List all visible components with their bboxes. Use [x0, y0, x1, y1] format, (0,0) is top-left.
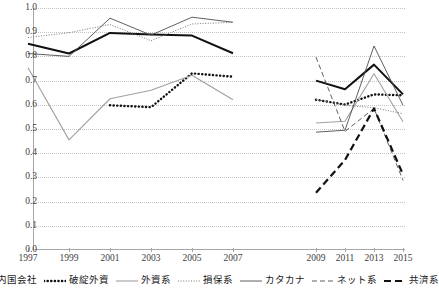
y-axis-tick-label: 1.0 — [7, 3, 37, 13]
legend-item[interactable]: 共済系 — [384, 276, 439, 286]
series-line — [28, 33, 233, 54]
legend-item[interactable]: カタカナ — [240, 276, 305, 286]
legend-item[interactable]: 破綻外資 — [44, 276, 109, 286]
x-axis-tick-mark — [69, 248, 70, 252]
legend-swatch-icon — [312, 277, 334, 285]
legend-item[interactable]: 損保系 — [178, 276, 233, 286]
x-axis-tick-mark — [403, 248, 404, 252]
legend-item[interactable]: ネット系 — [312, 276, 377, 286]
series-line — [28, 68, 233, 140]
y-axis-tick-label: 0.9 — [7, 27, 37, 37]
y-axis-tick-label: 0.0 — [7, 245, 37, 255]
x-axis-tick-mark — [233, 248, 234, 252]
legend-item[interactable]: 内国会社 — [0, 276, 37, 286]
x-axis-tick-mark — [151, 248, 152, 252]
chart-legend: 内国会社破綻外資外資系損保系カタカナネット系共済系 — [0, 270, 411, 291]
x-axis-tick-mark — [316, 248, 317, 252]
y-axis-tick-label: 0.7 — [7, 76, 37, 86]
legend-swatch-icon — [384, 277, 406, 285]
y-axis-tick-label: 0.2 — [7, 197, 37, 207]
legend-item-label: 外資系 — [141, 276, 171, 286]
series-line — [316, 108, 403, 192]
legend-swatch-icon — [240, 277, 262, 285]
legend-item[interactable]: 外資系 — [116, 276, 171, 286]
series-line — [316, 99, 403, 113]
x-axis-tick-mark — [110, 248, 111, 252]
y-axis-tick-label: 0.5 — [7, 124, 37, 134]
y-axis-tick-label: 0.3 — [7, 172, 37, 182]
legend-swatch-icon — [116, 277, 138, 285]
x-axis-tick-mark — [192, 248, 193, 252]
x-axis-tick-label: 2001 — [90, 254, 130, 264]
legend-item-label: 内国会社 — [0, 276, 37, 286]
x-axis-tick-label: 2015 — [383, 254, 423, 264]
y-axis-tick-label: 0.6 — [7, 100, 37, 110]
series-line — [316, 57, 403, 180]
x-axis-tick-mark — [374, 248, 375, 252]
legend-item-label: 損保系 — [203, 276, 233, 286]
x-axis: 1997199920012003200520072009201120132015 — [33, 252, 405, 268]
legend-item-label: 破綻外資 — [69, 276, 109, 286]
legend-swatch-icon — [44, 277, 66, 285]
x-axis-tick-label: 2007 — [213, 254, 253, 264]
series-line — [110, 73, 233, 107]
x-axis-tick-label: 1999 — [49, 254, 89, 264]
x-axis-tick-label: 2003 — [131, 254, 171, 264]
legend-item-label: カタカナ — [265, 276, 305, 286]
series-line — [316, 46, 403, 132]
series-layer — [33, 8, 405, 250]
legend-item-label: ネット系 — [337, 276, 377, 286]
x-axis-tick-label: 2005 — [172, 254, 212, 264]
y-axis-tick-label: 0.1 — [7, 221, 37, 231]
x-axis-tick-mark — [345, 248, 346, 252]
x-axis-tick-label: 1997 — [8, 254, 48, 264]
y-axis-tick-label: 0.8 — [7, 51, 37, 61]
legend-item-label: 共済系 — [409, 276, 439, 286]
y-axis-tick-label: 0.4 — [7, 148, 37, 158]
legend-swatch-icon — [178, 277, 200, 285]
series-line — [28, 22, 233, 40]
